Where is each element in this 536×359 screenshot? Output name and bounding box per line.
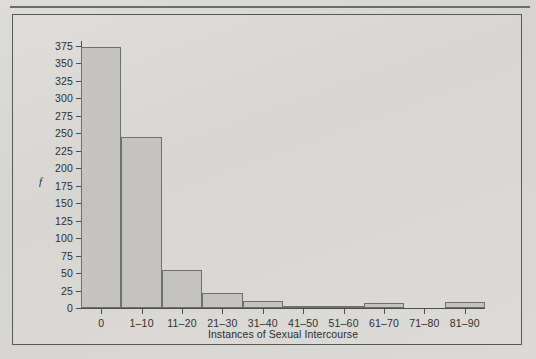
y-axis-tick-label: 250 — [55, 127, 73, 139]
y-axis-tick — [76, 308, 81, 309]
histogram-bar — [364, 303, 404, 308]
histogram-bar — [202, 293, 242, 308]
figure-frame: f 02550751001251501752002252502753003253… — [12, 14, 522, 345]
histogram-bar — [81, 47, 121, 308]
y-axis-tick-label: 200 — [55, 162, 73, 174]
top-divider-rule — [10, 6, 530, 8]
y-axis-tick-label: 50 — [61, 267, 73, 279]
histogram-bar — [162, 270, 202, 308]
histogram-bar — [445, 302, 485, 308]
y-axis-tick-label: 350 — [55, 57, 73, 69]
y-axis-tick-label: 75 — [61, 250, 73, 262]
y-axis-tick-label: 25 — [61, 285, 73, 297]
histogram-bar — [121, 137, 161, 308]
y-axis-tick-label: 100 — [55, 232, 73, 244]
y-axis-tick-label: 325 — [55, 75, 73, 87]
histogram-plot-area: 0255075100125150175200225250275300325350… — [81, 41, 485, 309]
x-axis-tick — [465, 309, 466, 314]
y-axis-tick-label: 125 — [55, 215, 73, 227]
x-axis-tick — [142, 309, 143, 314]
x-axis-tick — [101, 309, 102, 314]
x-axis-tick — [263, 309, 264, 314]
y-axis-tick-label: 225 — [55, 145, 73, 157]
x-axis-tick — [424, 309, 425, 314]
figure-page: f 02550751001251501752002252502753003253… — [0, 0, 536, 359]
x-axis-tick — [384, 309, 385, 314]
y-axis-tick-label: 375 — [55, 40, 73, 52]
y-axis-tick-label: 150 — [55, 197, 73, 209]
y-axis-tick-label: 300 — [55, 92, 73, 104]
y-axis-tick-label: 175 — [55, 180, 73, 192]
y-axis-tick-label: 275 — [55, 110, 73, 122]
y-axis-title: f — [39, 175, 42, 187]
x-axis-tick — [344, 309, 345, 314]
x-axis-tick — [303, 309, 304, 314]
histogram-bar — [243, 301, 283, 308]
x-axis-tick — [222, 309, 223, 314]
x-axis-tick — [182, 309, 183, 314]
histogram-bar — [283, 306, 323, 308]
y-axis-tick-label: 0 — [67, 302, 73, 314]
plot-inner: 0255075100125150175200225250275300325350… — [81, 41, 485, 309]
x-axis-title: Instances of Sexual Intercourse — [81, 328, 485, 340]
histogram-bar — [323, 306, 363, 308]
